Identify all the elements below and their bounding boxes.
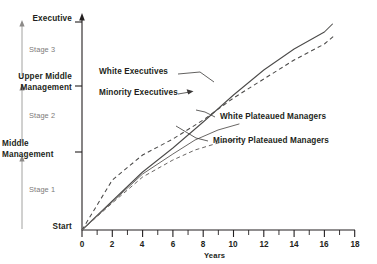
x-tick-label-2: 2 bbox=[104, 240, 120, 249]
leader-white-executives bbox=[178, 72, 214, 82]
x-tick-label-4: 4 bbox=[134, 240, 150, 249]
y-axis-arrowhead bbox=[79, 13, 85, 21]
stage-label-1: Stage 1 bbox=[29, 186, 55, 194]
tier-label-upper-middle-line1: Upper Middle bbox=[2, 72, 72, 81]
x-tick-label-16: 16 bbox=[316, 240, 332, 249]
x-tick-label-12: 12 bbox=[256, 240, 272, 249]
x-axis-title: Years bbox=[204, 252, 225, 261]
series-label-white-executives: White Executives bbox=[99, 67, 168, 76]
tier-label-upper-middle-line2: Management bbox=[2, 83, 72, 92]
tier-label-executive: Executive bbox=[4, 14, 72, 23]
x-axis bbox=[82, 230, 355, 237]
x-tick-label-8: 8 bbox=[195, 240, 211, 249]
stage-label-3: Stage 3 bbox=[29, 46, 55, 54]
series-label-minority-plateaued-managers: Minority Plateaued Managers bbox=[213, 136, 329, 145]
series-label-white-plateaued-managers: White Plateaued Managers bbox=[220, 112, 326, 121]
x-tick-label-0: 0 bbox=[74, 240, 90, 249]
series-line-minority-plateaued-managers bbox=[82, 139, 239, 230]
x-tick-label-6: 6 bbox=[165, 240, 181, 249]
x-minor-ticks bbox=[97, 230, 339, 235]
series-line-minority-executives bbox=[82, 36, 334, 230]
series-line-white-executives bbox=[82, 24, 333, 230]
tier-label-start: Start bbox=[4, 222, 72, 231]
x-tick-label-18: 18 bbox=[347, 240, 363, 249]
x-tick-label-14: 14 bbox=[286, 240, 302, 249]
x-tick-label-10: 10 bbox=[225, 240, 241, 249]
y-axis bbox=[75, 13, 85, 230]
leader-minority-executives-arrowhead bbox=[187, 89, 194, 94]
tier-label-middle-line1: Middle bbox=[2, 139, 72, 148]
series-label-minority-executives: Minority Executives bbox=[99, 88, 178, 97]
stage-label-2: Stage 2 bbox=[29, 112, 55, 120]
tier-label-middle-line2: Management bbox=[2, 150, 72, 159]
stage-arrows bbox=[19, 20, 24, 229]
chart-container: Executive Upper Middle Management Middle… bbox=[0, 0, 377, 264]
annotation-leaders bbox=[176, 72, 215, 141]
